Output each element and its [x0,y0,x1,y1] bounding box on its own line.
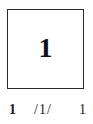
footer-row: 1 /1/ 1 [0,101,93,119]
footer-middle-value: /1/ [34,101,52,119]
footer-right-value: 1 [79,101,86,119]
box-value: 1 [39,34,53,62]
footer-left-value: 1 [9,101,16,119]
value-box: 1 [7,9,84,89]
